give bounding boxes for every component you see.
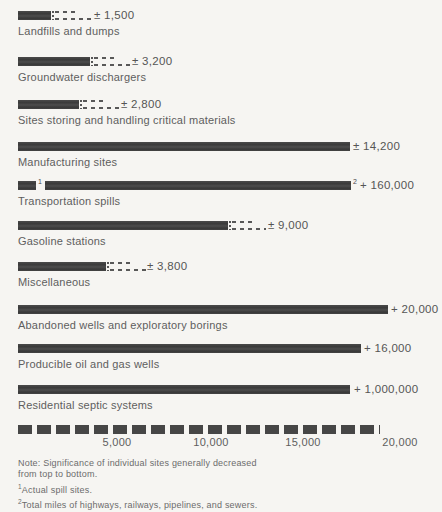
chart-row-groundwater-dischargers: ± 3,200 Groundwater dischargers	[0, 57, 442, 91]
footnote-marker-1: 1	[38, 178, 42, 185]
chart-row-residential-septic-systems: + 1,000,000 Residential septic systems	[0, 385, 442, 419]
uncertainty-dash-edge	[107, 262, 109, 271]
bar-label: Groundwater dischargers	[18, 71, 146, 83]
uncertainty-dash-bottom	[55, 18, 91, 20]
bar-label: Manufacturing sites	[18, 156, 117, 168]
bar-value: ± 1,500	[94, 9, 134, 21]
bar-residential-septic-systems	[18, 385, 350, 394]
uncertainty-dash-top	[94, 57, 116, 59]
bar-manufacturing-sites	[18, 142, 350, 151]
uncertainty-dash-bottom	[232, 228, 266, 230]
bar-gasoline-stations	[18, 221, 228, 230]
bar-sites-storing-materials	[18, 100, 79, 109]
uncertainty-dash-top	[110, 262, 130, 264]
chart-row-sites-storing-materials: ± 2,800 Sites storing and handling criti…	[0, 100, 442, 134]
uncertainty-dash-edge	[91, 57, 93, 66]
bar-landfills	[18, 11, 51, 20]
bar-groundwater-dischargers	[18, 57, 90, 66]
footnote-1-text: Actual spill sites.	[22, 485, 92, 495]
uncertainty-dash-bottom	[83, 107, 119, 109]
chart-row-gasoline-stations: ± 9,000 Gasoline stations	[0, 221, 442, 255]
bar-value: ± 3,200	[132, 55, 172, 67]
chart-row-abandoned-wells: + 20,000 Abandoned wells and exploratory…	[0, 305, 442, 339]
note-line-1: Note: Significance of individual sites g…	[18, 458, 398, 469]
figure-notes: Note: Significance of individual sites g…	[18, 458, 398, 512]
axis-tick-15000: 15,000	[285, 436, 320, 448]
bar-value: ± 14,200	[353, 140, 400, 152]
chart-row-manufacturing-sites: ± 14,200 Manufacturing sites	[0, 142, 442, 176]
footnote-1: 1Actual spill sites.	[18, 481, 398, 496]
bar-transportation-spills-actual	[18, 181, 36, 190]
axis-tick-20000: 20,000	[382, 436, 417, 448]
bar-transportation-spills-total-miles	[45, 181, 351, 190]
bar-value: ± 2,800	[121, 98, 161, 110]
footnote-2-text: Total miles of highways, railways, pipel…	[22, 500, 258, 510]
bar-value: + 160,000	[360, 179, 414, 191]
uncertainty-dash-bottom	[110, 269, 146, 271]
uncertainty-dash-top	[232, 221, 252, 223]
bar-label: Gasoline stations	[18, 235, 106, 247]
chart-row-transportation-spills: 1 2 + 160,000 Transportation spills	[0, 181, 442, 215]
bar-label: Sites storing and handling critical mate…	[18, 114, 236, 126]
bar-value: ± 9,000	[268, 219, 308, 231]
chart-row-producible-oil-gas-wells: + 16,000 Producible oil and gas wells	[0, 344, 442, 378]
uncertainty-dash-top	[83, 100, 103, 102]
bar-value: ± 3,800	[147, 260, 187, 272]
uncertainty-dash-edge	[229, 221, 231, 230]
bar-abandoned-wells	[18, 305, 388, 314]
axis-tick-5000: 5,000	[102, 436, 131, 448]
uncertainty-dash-top	[55, 11, 75, 13]
bar-miscellaneous	[18, 262, 106, 271]
chart-row-landfills: ± 1,500 Landfills and dumps	[0, 11, 442, 45]
bar-value: + 16,000	[364, 342, 412, 354]
uncertainty-dash-edge	[52, 11, 54, 20]
bar-label: Landfills and dumps	[18, 25, 120, 37]
axis-tick-10000: 10,000	[193, 436, 228, 448]
uncertainty-dash-edge	[80, 100, 82, 109]
bar-label: Transportation spills	[18, 195, 120, 207]
footnote-marker-2: 2	[353, 178, 357, 185]
uncertainty-dash-bottom	[94, 64, 132, 66]
bar-label: Residential septic systems	[18, 399, 153, 411]
footnote-2: 2Total miles of highways, railways, pipe…	[18, 496, 398, 511]
axis-scale-bar	[18, 425, 380, 434]
chart-row-miscellaneous: ± 3,800 Miscellaneous	[0, 262, 442, 296]
bar-label: Abandoned wells and exploratory borings	[18, 319, 228, 331]
bar-value: + 20,000	[391, 303, 439, 315]
bar-value: + 1,000,000	[354, 383, 418, 395]
bar-label: Miscellaneous	[18, 276, 90, 288]
bar-producible-oil-gas-wells	[18, 344, 361, 353]
bar-label: Producible oil and gas wells	[18, 358, 159, 370]
note-line-2: from top to bottom.	[18, 469, 398, 480]
